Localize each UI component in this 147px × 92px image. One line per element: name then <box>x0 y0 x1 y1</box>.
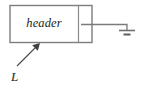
diagram-vector-layer <box>0 0 147 92</box>
header-cell-label: header <box>10 16 78 31</box>
callout-label: L <box>11 69 18 85</box>
callout-leader-line <box>17 46 37 66</box>
diagram-canvas: header L <box>0 0 147 92</box>
ground-wire <box>81 25 127 31</box>
